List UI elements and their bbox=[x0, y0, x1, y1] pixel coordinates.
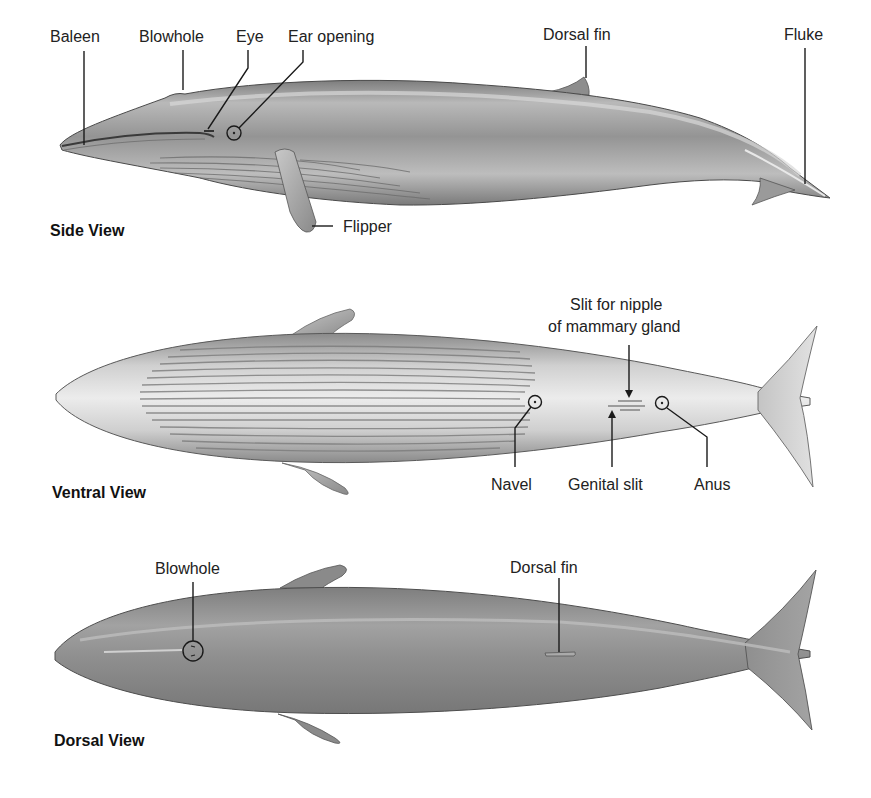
dorsal-flipper-top bbox=[280, 565, 347, 588]
view-title-ventral: Ventral View bbox=[52, 484, 147, 501]
ventral-tail-fluke bbox=[758, 326, 817, 487]
label-mammary-slit-line2: of mammary gland bbox=[548, 318, 681, 335]
view-title-dorsal: Dorsal View bbox=[54, 732, 145, 749]
label-dorsal-dorsal-fin: Dorsal fin bbox=[510, 559, 578, 576]
dorsal-fin-top-view bbox=[545, 652, 575, 656]
whale-anatomy-diagram: Baleen Blowhole Eye Ear opening Dorsal f… bbox=[0, 0, 871, 798]
label-genital-slit: Genital slit bbox=[568, 476, 643, 493]
side-body bbox=[60, 80, 830, 205]
label-flipper: Flipper bbox=[343, 218, 393, 235]
label-navel: Navel bbox=[491, 476, 532, 493]
label-baleen: Baleen bbox=[50, 28, 100, 45]
label-mammary-slit-line1: Slit for nipple bbox=[570, 296, 663, 313]
side-view: Baleen Blowhole Eye Ear opening Dorsal f… bbox=[50, 26, 830, 239]
ventral-flipper-top bbox=[290, 309, 355, 336]
label-eye: Eye bbox=[236, 28, 264, 45]
label-ear-opening: Ear opening bbox=[288, 28, 374, 45]
label-dorsal-fin: Dorsal fin bbox=[543, 26, 611, 43]
view-title-side: Side View bbox=[50, 222, 125, 239]
label-blowhole: Blowhole bbox=[139, 28, 204, 45]
label-dorsal-blowhole: Blowhole bbox=[155, 560, 220, 577]
dorsal-view: Blowhole Dorsal fin Dorsal View bbox=[54, 559, 816, 749]
label-fluke: Fluke bbox=[784, 26, 823, 43]
dorsal-flipper-bottom bbox=[278, 714, 340, 743]
ventral-view: Slit for nipple of mammary gland Navel G… bbox=[52, 296, 817, 501]
label-anus: Anus bbox=[694, 476, 730, 493]
ventral-flipper-bottom bbox=[282, 463, 348, 494]
